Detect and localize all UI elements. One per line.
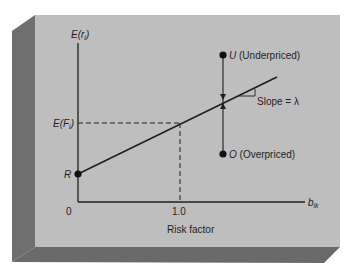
tick-label: 1.0 bbox=[172, 206, 186, 217]
point-o bbox=[219, 150, 226, 157]
panel-bottom-side bbox=[12, 247, 340, 263]
ef-label: E(Fi) bbox=[53, 118, 74, 130]
x-axis-title: Risk factor bbox=[167, 224, 215, 235]
slope-label: Slope = λ bbox=[257, 96, 299, 107]
panel-left-side bbox=[12, 15, 35, 262]
o-label: O (Overpriced) bbox=[229, 149, 295, 160]
origin-label: 0 bbox=[66, 206, 72, 217]
r-label: R bbox=[64, 169, 71, 180]
point-u bbox=[219, 51, 226, 58]
diagram-canvas: E(ri) E(Fi) R 0 1.0 Risk factor bik U (U… bbox=[0, 0, 349, 279]
y-axis-label: E(ri) bbox=[71, 29, 89, 41]
u-label: U (Underpriced) bbox=[229, 50, 300, 61]
point-r bbox=[74, 170, 81, 177]
